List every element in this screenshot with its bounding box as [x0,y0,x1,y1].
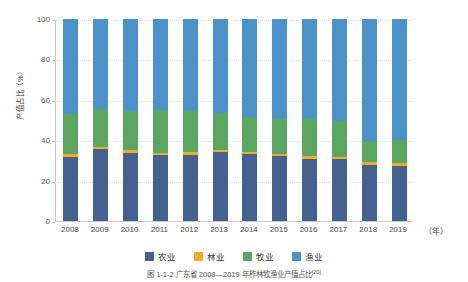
bar-segment[interactable] [302,156,317,159]
y-axis-tick-label: 60 [6,97,50,105]
bar-segment[interactable] [123,19,138,111]
legend-item[interactable]: 林业 [194,250,225,262]
legend-label: 林业 [207,250,225,262]
bar-segment[interactable] [123,150,138,153]
bar-column[interactable] [63,19,78,221]
legend-label: 农业 [158,250,176,262]
bar-segment[interactable] [242,117,257,152]
chart-legend: 农业林业牧业渔业 [0,250,468,262]
bar-segment[interactable] [392,140,407,163]
bar-segment[interactable] [392,166,407,221]
legend-swatch-icon [145,252,154,261]
legend-label: 牧业 [256,250,274,262]
bar-segment[interactable] [213,113,228,150]
bar-segment[interactable] [153,19,168,110]
legend-swatch-icon [243,252,252,261]
bar-segment[interactable] [123,153,138,221]
bar-segment[interactable] [242,152,257,154]
bar-segment[interactable] [93,147,108,149]
x-axis-unit-label: （年） [424,225,448,236]
legend-item[interactable]: 渔业 [292,250,323,262]
legend-swatch-icon [194,252,203,261]
bar-column[interactable] [362,19,377,221]
bar-segment[interactable] [213,19,228,113]
plot-area [55,20,413,222]
bar-segment[interactable] [63,114,78,154]
bar-segment[interactable] [242,154,257,221]
bar-segment[interactable] [272,19,287,119]
bar-column[interactable] [272,19,287,221]
bar-segment[interactable] [362,162,377,165]
bar-column[interactable] [302,19,317,221]
bar-column[interactable] [153,19,168,221]
y-axis-tick-mark [52,222,55,223]
bar-segment[interactable] [183,155,198,221]
bar-column[interactable] [332,19,347,221]
grid-line [56,60,413,61]
y-axis-tick-label: 80 [6,56,50,64]
bar-segment[interactable] [93,149,108,221]
bar-segment[interactable] [153,110,168,153]
figure-caption-superscript: [20] [312,269,321,275]
bar-segment[interactable] [123,111,138,150]
bar-segment[interactable] [392,19,407,140]
y-axis-title: 产值占比（%） [14,39,25,149]
bar-column[interactable] [123,19,138,221]
bar-column[interactable] [183,19,198,221]
bar-segment[interactable] [272,156,287,221]
legend-swatch-icon [292,252,301,261]
bar-segment[interactable] [392,163,407,166]
y-axis-tick-label: 0 [6,218,50,226]
bar-column[interactable] [242,19,257,221]
bar-segment[interactable] [362,141,377,162]
bar-segment[interactable] [63,154,78,157]
bar-segment[interactable] [272,119,287,154]
chart-figure: 产值占比（%） 020406080100 2008200920102011201… [0,0,468,282]
bar-segment[interactable] [63,19,78,114]
bar-column[interactable] [213,19,228,221]
x-axis-tick-label: 2019 [378,225,418,234]
bar-segment[interactable] [242,19,257,117]
bar-segment[interactable] [362,19,377,141]
bar-segment[interactable] [183,152,198,155]
bar-segment[interactable] [302,159,317,221]
legend-item[interactable]: 牧业 [243,250,274,262]
bar-segment[interactable] [93,19,108,109]
bar-segment[interactable] [332,159,347,221]
bar-column[interactable] [93,19,108,221]
bar-segment[interactable] [362,165,377,221]
figure-caption-text: 图 1-1-2 广东省 2008—2019 年柞林牧渔业产值占比 [147,270,312,279]
bar-segment[interactable] [213,150,228,152]
bar-segment[interactable] [63,157,78,221]
grid-line [56,20,413,21]
grid-line [56,141,413,142]
bar-segment[interactable] [213,152,228,221]
bar-segment[interactable] [153,153,168,155]
legend-label: 渔业 [305,250,323,262]
figure-caption: 图 1-1-2 广东省 2008—2019 年柞林牧渔业产值占比[20] [0,268,468,279]
bar-segment[interactable] [153,155,168,221]
bar-segment[interactable] [183,19,198,111]
bar-segment[interactable] [272,154,287,156]
y-axis-tick-label: 40 [6,137,50,145]
bar-segment[interactable] [332,121,347,157]
bar-segment[interactable] [332,157,347,159]
grid-line [56,182,413,183]
y-axis-tick-label: 100 [6,16,50,24]
bar-segment[interactable] [302,119,317,156]
bar-segment[interactable] [332,19,347,121]
bar-segment[interactable] [93,109,108,147]
grid-line [56,101,413,102]
legend-item[interactable]: 农业 [145,250,176,262]
bar-segment[interactable] [183,111,198,152]
bar-segment[interactable] [302,19,317,119]
y-axis-tick-label: 20 [6,178,50,186]
bar-column[interactable] [392,19,407,221]
